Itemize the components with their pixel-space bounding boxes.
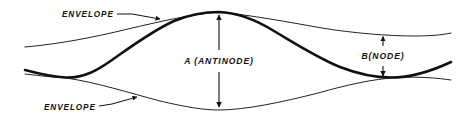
envelope-bottom-leader xyxy=(99,97,137,106)
envelope-top-callout: ENVELOPE xyxy=(62,10,160,19)
node-dimension: B(NODE) xyxy=(361,37,404,77)
standing-wave-curve xyxy=(25,12,451,78)
envelope-top-leader xyxy=(117,14,160,19)
envelope-top-label: ENVELOPE xyxy=(62,10,114,19)
antinode-dimension: A (ANTINODE) xyxy=(183,15,254,107)
envelope-bottom-label: ENVELOPE xyxy=(44,103,96,112)
antinode-label: A (ANTINODE) xyxy=(183,56,254,66)
standing-wave-diagram: A (ANTINODE) B(NODE) ENVELOPE ENVELOPE xyxy=(0,0,456,118)
envelope-bottom-callout: ENVELOPE xyxy=(44,97,137,112)
node-label: B(NODE) xyxy=(361,51,404,61)
